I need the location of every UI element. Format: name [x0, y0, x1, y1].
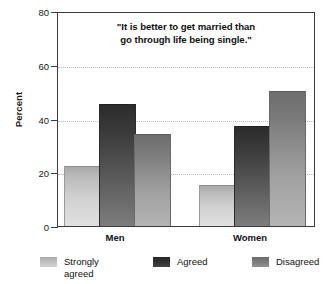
bar-women-strongly-agreed [199, 185, 236, 226]
legend-label-agreed: Agreed [177, 256, 208, 268]
bar-women-agreed [234, 126, 271, 226]
y-tick-mark-0 [51, 227, 58, 228]
bar-men-strongly-agreed [64, 166, 101, 226]
chart-title-line-1: "It is better to get married than [57, 20, 315, 33]
y-tick-label-20: 20 [23, 168, 49, 179]
legend-swatch-disagreed [252, 257, 269, 267]
legend-swatch-agreed [153, 257, 170, 267]
bar-chart-figure: Percent 80 60 40 20 0 "It is better to g… [0, 0, 333, 284]
chart-title: "It is better to get married than go thr… [57, 20, 315, 46]
legend-swatch-strongly-agreed [40, 257, 57, 267]
y-tick-label-0: 0 [23, 222, 49, 233]
legend-item-agreed: Agreed [153, 256, 208, 268]
y-tick-label-80: 80 [23, 7, 49, 18]
bar-women-disagreed [269, 91, 306, 226]
bar-men-agreed [99, 104, 136, 226]
y-axis-title: Percent [13, 70, 24, 150]
bar-men-disagreed [134, 134, 171, 226]
y-tick-label-60: 60 [23, 60, 49, 71]
chart-legend: Strongly agreed Agreed Disagreed [0, 256, 333, 284]
legend-label-disagreed: Disagreed [276, 256, 319, 268]
gridline-60 [58, 67, 314, 68]
legend-item-disagreed: Disagreed [252, 256, 319, 268]
y-tick-label-40: 40 [23, 114, 49, 125]
legend-label-strongly-agreed: Strongly agreed [64, 256, 99, 279]
x-group-label-men: Men [106, 232, 125, 243]
x-group-label-women: Women [233, 232, 267, 243]
chart-title-line-2: go through life being single." [57, 33, 315, 46]
legend-item-strongly-agreed: Strongly agreed [40, 256, 99, 279]
